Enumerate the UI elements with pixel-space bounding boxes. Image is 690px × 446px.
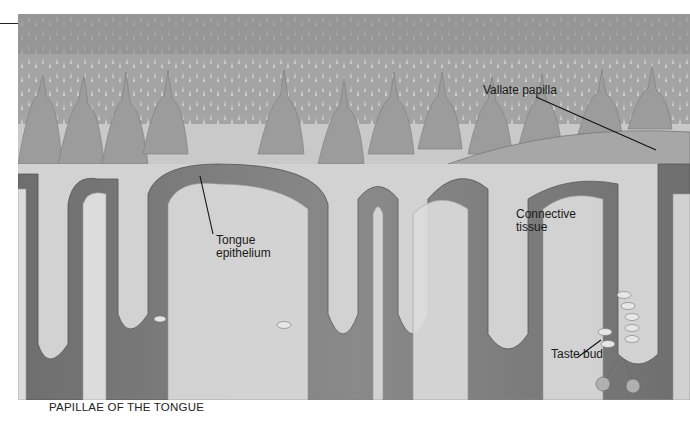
label-tongue-epithelium-line2: epithelium (216, 247, 271, 260)
margin-rule (0, 23, 18, 24)
label-vallate-papilla: Vallate papilla (483, 84, 557, 97)
figure-caption: PAPILLAE OF THE TONGUE (49, 401, 204, 413)
label-connective-tissue-line2: tissue (516, 221, 576, 234)
label-taste-bud: Taste bud (551, 348, 603, 361)
tongue-papillae-illustration (18, 14, 690, 400)
label-tongue-epithelium: Tongue epithelium (216, 234, 271, 260)
label-connective-tissue: Connective tissue (516, 208, 576, 234)
